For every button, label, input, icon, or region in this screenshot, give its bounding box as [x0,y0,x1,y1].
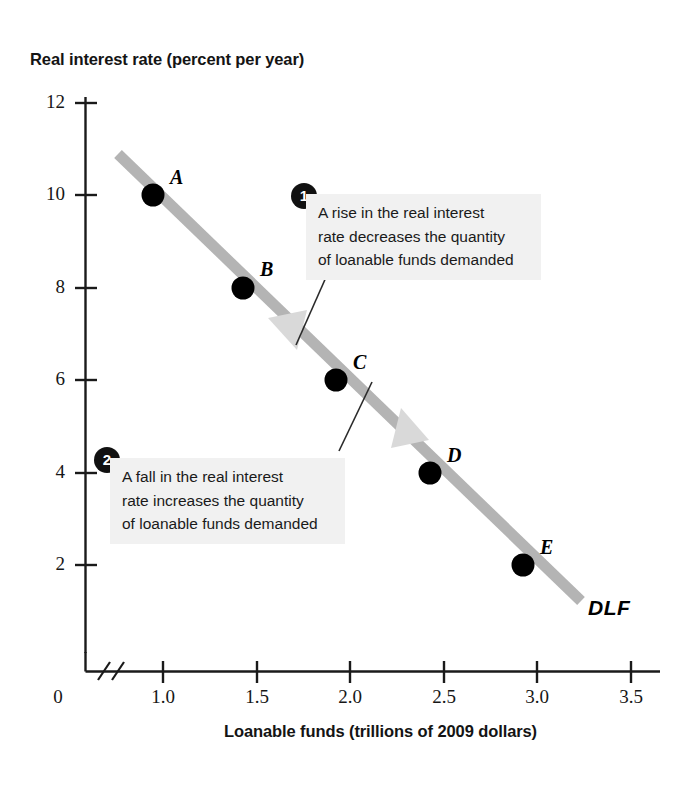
y-tick-label-12: 12 [25,91,65,113]
data-point-label-a: A [170,166,183,189]
x-origin-label: 0 [28,686,88,708]
callout-1-box: A rise in the real interest rate decreas… [306,194,541,280]
x-tick-label-1-0: 1.0 [133,686,193,708]
callout-2-box: A fall in the real interest rate increas… [110,458,345,544]
loanable-funds-demand-figure: Real interest rate (percent per year) [0,0,675,785]
data-point-c [325,369,348,392]
data-point-d [419,462,442,485]
x-axis-title: Loanable funds (trillions of 2009 dollar… [224,722,537,741]
callout-2-line-1: A fall in the real interest [122,465,335,489]
data-point-label-b: B [260,258,273,281]
curve-label-dlf: DLF [588,596,630,620]
x-tick-label-3-0: 3.0 [507,686,567,708]
x-tick-label-1-5: 1.5 [227,686,287,708]
data-point-e [512,554,535,577]
x-tick-label-2-0: 2.0 [320,686,380,708]
callout-1-line-2: rate decreases the quantity [318,225,531,249]
y-tick-label-4: 4 [25,461,65,483]
data-point-label-c: C [353,351,366,374]
y-tick-label-6: 6 [25,368,65,390]
y-tick-label-2: 2 [25,553,65,575]
callout-2-line-3: of loanable funds demanded [122,512,335,536]
callout-1-line-3: of loanable funds demanded [318,248,531,272]
y-tick-label-8: 8 [25,276,65,298]
x-tick-label-2-5: 2.5 [414,686,474,708]
callout-2-line-2: rate increases the quantity [122,489,335,513]
arrow-up-left-icon [268,310,307,350]
data-point-a [142,184,165,207]
data-point-b [232,277,255,300]
data-point-label-d: D [447,444,461,467]
y-tick-label-10: 10 [25,183,65,205]
callout-2-leader-line [339,382,372,451]
chart-canvas [0,0,675,785]
data-point-label-e: E [540,536,553,559]
callout-1-line-1: A rise in the real interest [318,201,531,225]
x-tick-label-3-5: 3.5 [601,686,661,708]
